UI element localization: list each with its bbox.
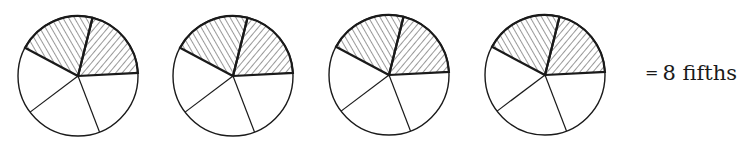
division-line (389, 75, 411, 131)
fraction-circles-figure (0, 0, 753, 148)
fraction-circle-3 (329, 15, 449, 135)
division-line (30, 76, 78, 112)
division-line (545, 75, 567, 131)
division-line (185, 76, 233, 112)
fraction-circle-1 (18, 16, 138, 136)
equals-sign: = (645, 63, 658, 82)
result-text: 8 fifths (662, 61, 737, 85)
division-line (233, 76, 255, 132)
division-line (341, 75, 389, 111)
fraction-circle-2 (173, 16, 293, 136)
result-label: =8 fifths (645, 61, 737, 85)
division-line (78, 76, 100, 132)
fraction-circle-4 (485, 15, 605, 135)
division-line (497, 75, 545, 111)
